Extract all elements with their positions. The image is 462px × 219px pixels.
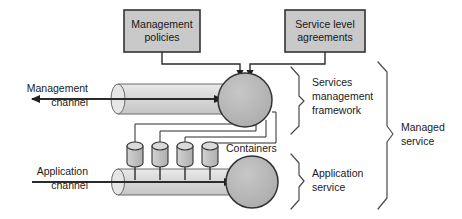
service-level-agreements-box: Service level agreements (285, 10, 365, 52)
services-management-framework-label-line1: Services (312, 76, 352, 88)
management-policies-box: Management policies (124, 10, 200, 52)
services-management-framework-brace: Services management framework (291, 67, 373, 134)
services-management-framework-node (218, 73, 272, 127)
services-management-framework-label-line3: framework (312, 104, 362, 116)
application-service-label-line2: service (312, 181, 345, 193)
service-level-agreements-label-line2: agreements (297, 31, 352, 43)
managed-service-diagram: Management policies Service level agreem… (0, 0, 462, 219)
management-channel-label: Management channel (27, 82, 88, 108)
services-management-framework-label-line2: management (312, 90, 373, 102)
managed-service-label-line1: Managed (401, 121, 445, 133)
management-policies-label-line1: Management (131, 18, 192, 30)
diagram-canvas: Management policies Service level agreem… (0, 0, 462, 219)
service-level-agreements-label-line1: Service level (295, 18, 355, 30)
application-channel-label-line1: Application (37, 165, 89, 177)
application-service-label-line1: Application (312, 167, 364, 179)
application-service-brace: Application service (291, 154, 364, 209)
containers-label: Containers (226, 142, 277, 154)
application-channel-label-line2: channel (51, 179, 88, 191)
application-service-node (226, 156, 278, 208)
managed-service-brace: Managed service (378, 62, 445, 209)
application-channel-label: Application channel (37, 165, 89, 191)
management-channel-label-line1: Management (27, 82, 88, 94)
management-channel-label-line2: channel (51, 96, 88, 108)
managed-service-label-line2: service (401, 135, 434, 147)
management-policies-label-line2: policies (144, 31, 179, 43)
